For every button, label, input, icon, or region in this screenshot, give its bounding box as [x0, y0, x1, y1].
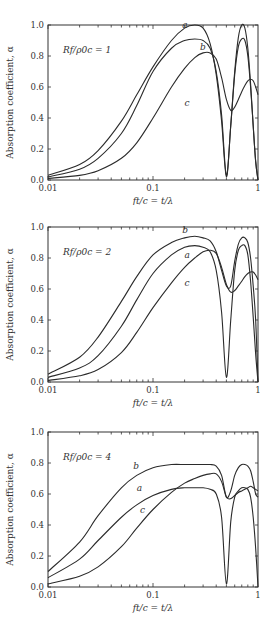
- y-axis-title: Absorption coefficient, α: [5, 248, 15, 361]
- series-label-a: a: [185, 250, 190, 260]
- y-tick-label: 1.0: [30, 427, 44, 437]
- y-tick-label: 0.6: [30, 284, 44, 294]
- y-tick-label: 0.8: [30, 458, 44, 468]
- y-tick-label: 0.4: [30, 520, 44, 530]
- x-tick-label: 1: [255, 183, 260, 193]
- chart-annotation: Rf/ρ0c = 4: [62, 452, 111, 462]
- series-label-b: b: [133, 461, 139, 471]
- chart-rf-1: 0.010.110.00.20.40.60.81.0ft/c = t/λAbso…: [0, 0, 274, 205]
- y-tick-label: 0.2: [30, 144, 44, 154]
- x-axis-title: ft/c = t/λ: [132, 196, 174, 205]
- chart-rf-3: 0.010.110.00.20.40.60.81.0ft/c = t/λAbso…: [0, 413, 274, 627]
- y-tick-label: 0.2: [30, 551, 44, 561]
- series-label-c: c: [185, 98, 190, 108]
- x-tick-label: 1: [255, 385, 260, 395]
- series-b-line: [48, 236, 258, 382]
- y-tick-label: 0.0: [30, 582, 44, 592]
- x-axis-title: ft/c = t/λ: [132, 398, 174, 408]
- series-label-a: a: [137, 483, 142, 493]
- series-c-line: [48, 250, 258, 380]
- series-b-line: [48, 464, 258, 571]
- x-tick-label: 0.1: [146, 183, 160, 193]
- series-b-line: [48, 38, 258, 180]
- chart-rf-2: 0.010.110.00.20.40.60.81.0ft/c = t/λAbso…: [0, 205, 274, 413]
- y-tick-label: 0.2: [30, 346, 44, 356]
- y-tick-label: 0.8: [30, 253, 44, 263]
- y-tick-label: 1.0: [30, 20, 44, 30]
- chart-annotation: Rf/ρ0c = 1: [62, 45, 111, 55]
- chart-svg: 0.010.110.00.20.40.60.81.0ft/c = t/λAbso…: [0, 413, 274, 627]
- series-a-line: [48, 488, 258, 587]
- chart-svg: 0.010.110.00.20.40.60.81.0ft/c = t/λAbso…: [0, 205, 274, 413]
- series-c-line: [48, 473, 258, 584]
- y-tick-label: 0.8: [30, 51, 44, 61]
- y-tick-label: 0.4: [30, 315, 44, 325]
- y-tick-label: 0.4: [30, 113, 44, 123]
- series-label-c: c: [140, 505, 145, 515]
- y-tick-label: 0.6: [30, 82, 44, 92]
- series-label-a: a: [182, 20, 187, 30]
- series-label-c: c: [185, 278, 190, 288]
- y-tick-label: 0.0: [30, 175, 44, 185]
- x-axis-title: ft/c = t/λ: [132, 603, 174, 613]
- chart-svg: 0.010.110.00.20.40.60.81.0ft/c = t/λAbso…: [0, 0, 274, 205]
- y-tick-label: 0.0: [30, 377, 44, 387]
- series-label-b: b: [182, 225, 188, 235]
- x-tick-label: 0.1: [146, 385, 160, 395]
- y-tick-label: 1.0: [30, 222, 44, 232]
- y-tick-label: 0.6: [30, 489, 44, 499]
- x-tick-label: 1: [255, 590, 260, 600]
- series-label-b: b: [200, 42, 206, 52]
- x-tick-label: 0.1: [146, 590, 160, 600]
- y-axis-title: Absorption coefficient, α: [5, 453, 15, 566]
- series-a-line: [48, 245, 258, 382]
- y-axis-title: Absorption coefficient, α: [5, 46, 15, 159]
- chart-annotation: Rf/ρ0c = 2: [62, 247, 111, 257]
